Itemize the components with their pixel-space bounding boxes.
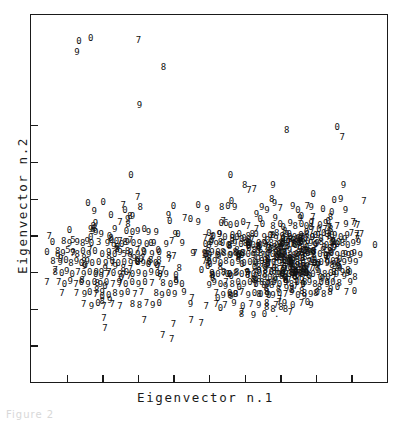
data-point-0: 0: [88, 33, 93, 42]
data-point-cluster: 0: [307, 272, 312, 281]
data-point-cluster: 7: [46, 231, 51, 240]
data-point-cluster: 7: [44, 278, 49, 287]
data-point-8: 8: [270, 304, 275, 313]
data-point-cluster: 0: [239, 260, 244, 269]
data-point-cluster: 0: [328, 284, 333, 293]
data-point-cluster: 9: [55, 252, 60, 261]
data-point-cluster: 8: [352, 272, 357, 281]
data-point-0: 0: [92, 247, 97, 256]
data-point-cluster: 0: [246, 243, 251, 252]
data-point-8: 8: [292, 222, 297, 231]
data-point-cluster: 7: [344, 288, 349, 297]
data-point-7: 7: [169, 334, 174, 343]
data-point-7: 7: [287, 308, 292, 317]
data-point-cluster: 7: [296, 242, 301, 251]
data-point-7: 7: [136, 35, 141, 44]
data-point-cluster: 0: [229, 196, 234, 205]
data-point-7: 7: [339, 132, 344, 141]
data-point-0: 0: [332, 196, 337, 205]
data-point-cluster: 7: [59, 288, 64, 297]
data-point-8: 8: [154, 289, 159, 298]
data-point-cluster: 0: [102, 281, 107, 290]
data-point-0: 0: [76, 36, 81, 45]
data-point-cluster: 0: [207, 259, 212, 268]
data-point-7: 7: [101, 313, 106, 322]
data-point-cluster: 0: [215, 294, 220, 303]
data-point-cluster: 7: [87, 245, 92, 254]
data-point-cluster: 8: [173, 276, 178, 285]
data-point-cluster: 7: [106, 268, 111, 277]
data-points-layer: 0097898070087799708909700708009809997907…: [31, 15, 387, 382]
data-point-cluster: 9: [273, 234, 278, 243]
data-point-cluster: 0: [215, 247, 220, 256]
data-point-cluster: 9: [99, 272, 104, 281]
data-point-cluster: 8: [239, 310, 244, 319]
data-point-cluster: 9: [107, 295, 112, 304]
data-point-cluster: 0: [352, 286, 357, 295]
data-point-cluster: 7: [167, 255, 172, 264]
data-point-0: 0: [167, 216, 172, 225]
data-point-9: 9: [146, 227, 151, 236]
data-point-cluster: 9: [310, 247, 315, 256]
data-point-0: 0: [228, 220, 233, 229]
data-point-cluster: 9: [297, 213, 302, 222]
data-point-cluster: 9: [93, 227, 98, 236]
data-point-7: 7: [149, 278, 154, 287]
data-point-7: 7: [160, 331, 165, 340]
data-point-9: 9: [204, 204, 209, 213]
data-point-cluster: 9: [91, 207, 96, 216]
data-point-cluster: 7: [282, 264, 287, 273]
data-point-cluster: 9: [277, 250, 282, 259]
data-point-cluster: 7: [250, 234, 255, 243]
data-point-cluster: 8: [299, 287, 304, 296]
data-point-0: 0: [171, 201, 176, 210]
data-point-9: 9: [308, 202, 313, 211]
data-point-cluster: 0: [236, 282, 241, 291]
data-point-9: 9: [181, 288, 186, 297]
data-point-cluster: 8: [252, 275, 257, 284]
data-point-cluster: 0: [305, 236, 310, 245]
data-point-7: 7: [182, 213, 187, 222]
data-point-cluster: 0: [219, 218, 224, 227]
data-point-9: 9: [149, 268, 154, 277]
data-point-cluster: 0: [218, 303, 223, 312]
data-point-cluster: 7: [352, 220, 357, 229]
data-point-0: 0: [166, 288, 171, 297]
data-point-9: 9: [137, 100, 142, 109]
data-point-9: 9: [180, 238, 185, 247]
data-point-cluster: 7: [117, 217, 122, 226]
data-point-cluster: 7: [323, 254, 328, 263]
data-point-cluster: 9: [304, 246, 309, 255]
data-point-cluster: 7: [192, 248, 197, 257]
data-point-7: 7: [135, 192, 140, 201]
data-point-7: 7: [248, 299, 253, 308]
data-point-cluster: 7: [326, 233, 331, 242]
data-point-cluster: 8: [209, 271, 214, 280]
data-point-cluster: 0: [108, 211, 113, 220]
data-point-cluster: 0: [347, 268, 352, 277]
data-point-0: 0: [196, 200, 201, 209]
data-point-cluster: 0: [148, 239, 153, 248]
data-point-7: 7: [251, 185, 256, 194]
data-point-cluster: 7: [276, 297, 281, 306]
data-point-9: 9: [196, 217, 201, 226]
data-point-cluster: 9: [228, 251, 233, 260]
figure-caption: Figure 2: [6, 409, 54, 420]
data-point-7: 7: [117, 301, 122, 310]
data-point-cluster: 7: [117, 236, 122, 245]
data-point-cluster: 7: [267, 244, 272, 253]
data-point-cluster: 7: [171, 252, 176, 261]
data-point-9: 9: [150, 300, 155, 309]
data-point-0: 0: [334, 122, 339, 131]
data-point-7: 7: [81, 300, 86, 309]
data-point-cluster: 7: [169, 236, 174, 245]
data-point-cluster: 0: [146, 259, 151, 268]
data-point-cluster: 9: [98, 229, 103, 238]
data-point-7: 7: [198, 318, 203, 327]
data-point-8: 8: [219, 202, 224, 211]
data-point-9: 9: [74, 47, 79, 56]
data-point-cluster: 9: [272, 214, 277, 223]
data-point-cluster: 7: [70, 248, 75, 257]
data-point-9: 9: [341, 180, 346, 189]
data-point-9: 9: [135, 226, 140, 235]
